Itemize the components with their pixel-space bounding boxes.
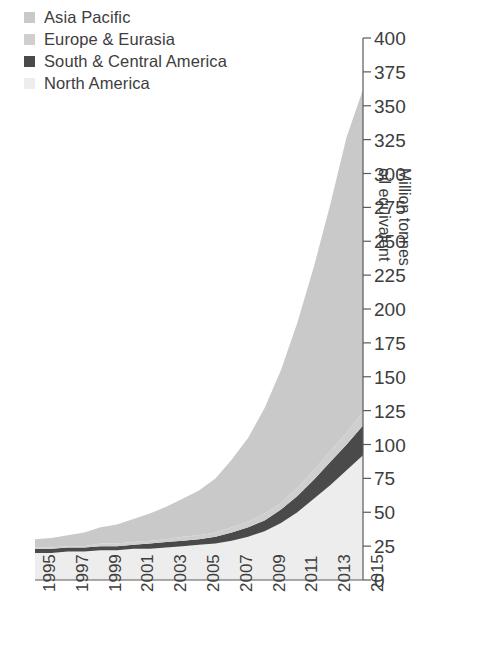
y-axis-tick-label: 100: [374, 435, 406, 454]
y-axis-title-line-1: Million tonnes: [394, 168, 414, 418]
chart-root: Asia Pacific Europe & Eurasia South & Ce…: [0, 0, 485, 646]
y-axis-tick-label: 350: [374, 96, 406, 115]
y-axis-title-line-2: oil equivalent: [374, 168, 394, 418]
x-axis-tick-label: 2007: [238, 554, 255, 592]
x-axis-tick-label: 1995: [41, 554, 58, 592]
x-axis-tick-label: 2003: [172, 554, 189, 592]
y-axis-tick-label: 400: [374, 29, 406, 48]
y-axis-tick-label: 50: [374, 503, 395, 522]
y-axis-title: Million tonnes oil equivalent: [374, 168, 414, 418]
x-axis-tick-label: 2005: [205, 554, 222, 592]
x-axis-tick-label: 2009: [271, 554, 288, 592]
area-series-group: [35, 89, 363, 580]
x-axis-tick-label: 2015: [369, 554, 386, 592]
y-axis-tick-label: 25: [374, 537, 395, 556]
y-axis-tick-label: 325: [374, 130, 406, 149]
x-axis-tick-label: 2011: [303, 555, 320, 592]
x-axis-tick-label: 1997: [74, 554, 91, 592]
y-axis-tick-label: 75: [374, 469, 395, 488]
x-axis-tick-label: 2013: [336, 554, 353, 592]
x-axis-tick-label: 2001: [139, 554, 156, 592]
y-axis-tick-label: 375: [374, 62, 406, 81]
x-axis-tick-label: 1999: [107, 554, 124, 592]
